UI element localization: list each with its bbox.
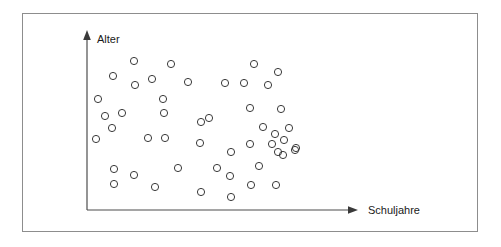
data-point [268,140,275,147]
data-point [92,135,99,142]
data-point [255,162,262,169]
data-point [174,164,181,171]
data-point [246,104,253,111]
scatter-plot-figure: Alter Schuljahre [0,0,501,247]
data-point [118,109,125,116]
data-point [94,95,101,102]
data-point [130,171,137,178]
data-point [184,78,191,85]
data-point [160,109,167,116]
data-point [205,114,212,121]
data-point [285,124,292,131]
right-arrow-icon [348,206,358,214]
data-point [250,60,257,67]
data-point [131,81,138,88]
data-point [227,193,234,200]
plot-canvas [0,0,501,247]
data-point [151,183,158,190]
data-point [110,165,117,172]
axes-group [83,30,358,214]
data-point [271,130,278,137]
up-arrow-icon [83,30,91,40]
data-point [148,75,155,82]
y-axis-label: Alter [97,34,120,45]
data-point [130,57,137,64]
data-point [101,112,108,119]
data-point [246,140,253,147]
data-points-group [92,57,299,200]
data-point [109,72,116,79]
data-point [161,134,168,141]
data-point [159,95,166,102]
data-point [227,148,234,155]
data-point [197,188,204,195]
data-point [167,60,174,67]
data-point [197,118,204,125]
data-point [240,79,247,86]
data-point [280,136,287,143]
data-point [213,164,220,171]
data-point [277,105,284,112]
data-point [226,172,233,179]
data-point [259,123,266,130]
x-axis-label: Schuljahre [368,205,420,216]
data-point [110,180,117,187]
data-point [108,124,115,131]
data-point [272,181,279,188]
data-point [196,139,203,146]
data-point [221,79,228,86]
data-point [247,181,254,188]
data-point [264,81,271,88]
data-point [144,134,151,141]
data-point [274,68,281,75]
